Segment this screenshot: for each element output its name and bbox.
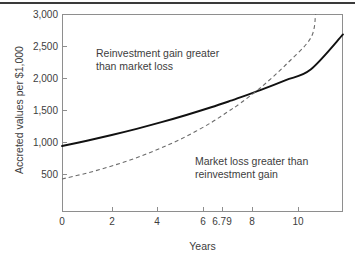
annotation-reinvestment-gain-region: Reinvestment gain greater than market lo… [96,47,219,73]
x-tick-label-6-79: 6.79 [208,216,236,227]
plot-area-frame [62,14,343,212]
top-rule-divider [0,2,355,4]
annotation-reinvestment-line-1: Reinvestment gain greater [96,47,219,60]
y-tick-mark-3000 [62,14,67,15]
x-tick-label-10: 10 [284,216,312,227]
annotation-market-loss-line-2: reinvestment gain [195,168,308,181]
x-tick-mark-4 [157,207,158,212]
y-tick-mark-2000 [62,78,67,79]
y-tick-mark-500 [62,174,67,175]
x-tick-label-8: 8 [238,216,266,227]
y-tick-mark-1000 [62,142,67,143]
x-tick-label-2: 2 [98,216,126,227]
annotation-market-loss-region: Market loss greater than reinvestment ga… [195,155,308,181]
x-axis-title: Years [62,240,343,252]
y-axis-title: Accreted values per $1,000 [13,35,25,185]
x-tick-mark-8 [252,207,253,212]
annotation-reinvestment-line-2: than market loss [96,60,219,73]
y-tick-label-3000: 3,000 [14,9,58,20]
chart-figure: 3,000 2,500 2,000 1,500 1,000 500 0 2 4 … [0,0,355,266]
x-tick-mark-6-79 [222,207,223,212]
x-tick-label-0: 0 [48,216,76,227]
y-tick-mark-2500 [62,46,67,47]
x-tick-mark-10 [298,207,299,212]
x-tick-mark-2 [112,207,113,212]
x-tick-mark-6 [203,207,204,212]
annotation-market-loss-line-1: Market loss greater than [195,155,308,168]
x-tick-label-4: 4 [143,216,171,227]
x-tick-mark-0 [62,207,63,212]
y-tick-mark-1500 [62,110,67,111]
